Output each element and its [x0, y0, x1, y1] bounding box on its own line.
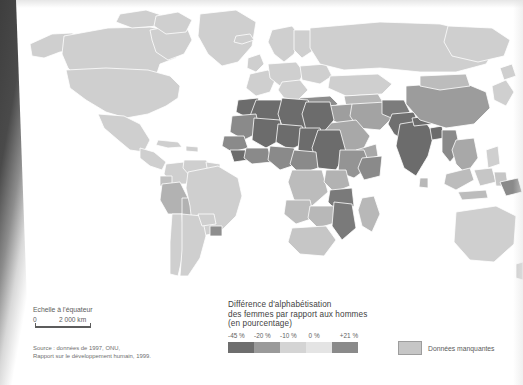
legend-swatch-0[interactable] [228, 342, 254, 353]
source-line-2: Rapport sur le développement humain, 199… [33, 353, 151, 361]
country-hispaniola [186, 146, 198, 152]
country-kazakhstan [328, 74, 392, 96]
scale-bar-rule [35, 326, 91, 328]
legend-tick-labels: -45 % -20 % -10 % 0 % +21 % [228, 332, 358, 342]
legend-title: Différence d'alphabétisation des femmes … [228, 300, 404, 329]
legend-tick-1: -20 % [254, 332, 271, 339]
country-indonesia-java [458, 190, 488, 200]
legend-missing-label: Données manquantes [428, 345, 495, 352]
legend-tick-3: 0 % [309, 332, 320, 339]
scale-bar-min: 0 [33, 316, 37, 323]
legend-title-line1: Différence d'alphabétisation [228, 300, 404, 310]
scale-bar-labels: 0 2 000 km [33, 316, 123, 325]
legend-color-ramp [228, 342, 358, 353]
map-page: Différence d'alphabétisation des femmes … [0, 0, 523, 385]
legend-swatch-2[interactable] [280, 342, 306, 353]
legend-tick-0: -45 % [228, 332, 245, 339]
scale-bar-title: Echelle à l'équateur [33, 306, 123, 313]
legend-missing-data: Données manquantes [398, 341, 495, 355]
legend-tick-2: -10 % [280, 332, 297, 339]
country-ivorycoast-ghana [244, 148, 272, 164]
country-uruguay [210, 226, 222, 236]
legend-title-line3: (en pourcentage) [228, 319, 404, 329]
country-philippines [486, 146, 500, 168]
legend-tick-4: +21 % [340, 332, 358, 339]
legend-title-line2: des femmes par rapport aux hommes [228, 310, 404, 320]
legend-swatch-3[interactable] [306, 342, 332, 353]
world-map-svg[interactable] [0, 0, 523, 300]
country-srilanka [419, 178, 428, 188]
legend-swatch-4[interactable] [332, 342, 358, 353]
scale-bar-max: 2 000 km [59, 316, 86, 323]
scale-bar: Echelle à l'équateur 0 2 000 km [33, 306, 123, 328]
source-note: Source : données de 1997, ONU, Rapport s… [33, 345, 151, 360]
map-legend: Différence d'alphabétisation des femmes … [228, 300, 404, 353]
world-map-container [0, 0, 523, 300]
source-line-1: Source : données de 1997, ONU, [33, 345, 151, 353]
legend-swatch-1[interactable] [254, 342, 280, 353]
country-newzealand [516, 262, 523, 280]
legend-missing-swatch[interactable] [398, 341, 422, 355]
